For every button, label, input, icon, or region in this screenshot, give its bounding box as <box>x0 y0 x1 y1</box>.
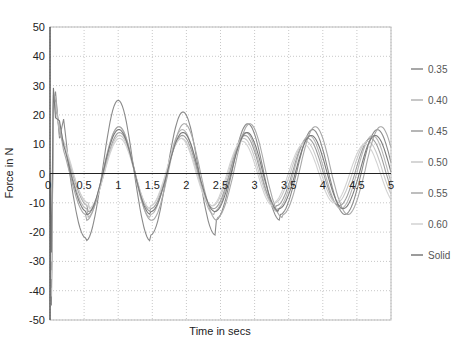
x-tick-label: 2 <box>183 179 189 191</box>
x-tick-label: 3 <box>252 179 258 191</box>
y-tick-label: -50 <box>29 314 45 326</box>
x-tick-label: 1.5 <box>145 179 160 191</box>
series-line-Solid <box>50 88 391 253</box>
y-axis-label: Force in N <box>3 148 15 199</box>
y-tick-label: 10 <box>33 138 45 150</box>
x-tick-label: 0 <box>45 179 51 191</box>
y-tick-label: -40 <box>29 285 45 297</box>
legend-label: 0.35 <box>428 64 448 75</box>
x-tick-label: 1 <box>115 179 121 191</box>
y-tick-label: -20 <box>29 226 45 238</box>
x-tick-labels: 00.511.522.533.544.55 <box>45 179 394 191</box>
legend-label: 0.55 <box>428 188 448 199</box>
legend-label: 0.40 <box>428 95 448 106</box>
legend-label: Solid <box>428 250 450 261</box>
y-tick-label: 40 <box>33 50 45 62</box>
x-tick-label: 4.5 <box>349 179 364 191</box>
y-tick-labels: 50403020100-10-20-30-40-50 <box>29 21 45 326</box>
legend-label: 0.60 <box>428 219 448 230</box>
y-tick-label: 50 <box>33 21 45 33</box>
y-tick-label: 20 <box>33 109 45 121</box>
legend: 0.350.400.450.500.550.60Solid <box>411 64 450 261</box>
legend-label: 0.45 <box>428 126 448 137</box>
y-tick-label: 30 <box>33 80 45 92</box>
y-tick-label: -10 <box>29 197 45 209</box>
x-tick-label: 4 <box>320 179 326 191</box>
x-tick-label: 3.5 <box>281 179 296 191</box>
x-axis-label: Time in secs <box>189 325 251 337</box>
x-tick-label: 2.5 <box>213 179 228 191</box>
x-tick-label: 5 <box>388 179 394 191</box>
line-chart: 50403020100-10-20-30-40-50 00.511.522.53… <box>0 0 466 349</box>
legend-label: 0.50 <box>428 157 448 168</box>
y-tick-label: -30 <box>29 255 45 267</box>
x-tick-label: 0.5 <box>76 179 91 191</box>
